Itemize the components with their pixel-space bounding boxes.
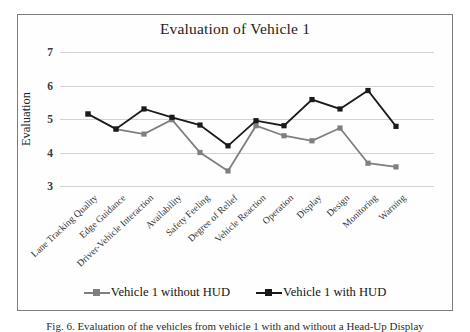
y-axis-tick-label: 7 bbox=[47, 46, 53, 58]
data-point-marker bbox=[85, 111, 90, 116]
data-point-marker bbox=[309, 97, 314, 102]
data-point-marker bbox=[393, 164, 398, 169]
y-axis-tick-label: 3 bbox=[47, 180, 53, 192]
data-point-marker bbox=[197, 122, 202, 127]
legend-label: Vehicle 1 without HUD bbox=[111, 285, 230, 300]
data-point-marker bbox=[225, 143, 230, 148]
data-point-marker bbox=[309, 138, 314, 143]
data-point-marker bbox=[169, 115, 174, 120]
series-line bbox=[88, 114, 396, 171]
data-point-marker bbox=[141, 131, 146, 136]
data-point-marker bbox=[393, 124, 398, 129]
chart-legend: Vehicle 1 without HUDVehicle 1 with HUD bbox=[17, 285, 453, 300]
data-point-marker bbox=[281, 123, 286, 128]
data-point-marker bbox=[225, 168, 230, 173]
data-point-marker bbox=[253, 123, 258, 128]
chart-series-layer bbox=[60, 52, 434, 186]
legend-entry[interactable]: Vehicle 1 without HUD bbox=[84, 285, 230, 300]
gridline bbox=[60, 186, 434, 187]
y-axis-tick-label: 4 bbox=[47, 147, 53, 159]
y-axis-tick-label: 6 bbox=[47, 80, 53, 92]
figure-caption: Fig. 6. Evaluation of the vehicles from … bbox=[0, 320, 470, 332]
data-point-marker bbox=[337, 106, 342, 111]
chart-title: Evaluation of Vehicle 1 bbox=[17, 20, 453, 38]
legend-label: Vehicle 1 with HUD bbox=[283, 285, 386, 300]
data-point-marker bbox=[281, 133, 286, 138]
data-point-marker bbox=[197, 150, 202, 155]
series-line bbox=[88, 91, 396, 146]
y-axis-tick-label: 5 bbox=[47, 113, 53, 125]
data-point-marker bbox=[365, 161, 370, 166]
data-point-marker bbox=[365, 88, 370, 93]
data-point-marker bbox=[113, 126, 118, 131]
legend-entry[interactable]: Vehicle 1 with HUD bbox=[256, 285, 386, 300]
data-point-marker bbox=[141, 106, 146, 111]
y-axis-label: Evaluation bbox=[19, 92, 34, 146]
data-point-marker bbox=[253, 118, 258, 123]
data-point-marker bbox=[337, 125, 342, 130]
